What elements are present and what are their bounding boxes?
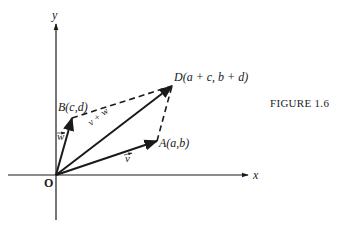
vector-addition-diagram [0, 0, 356, 236]
point-b-label: B(c,d) [58, 101, 88, 113]
dashed-side-a-to-d [157, 86, 172, 141]
vector-w-label: w [57, 131, 64, 142]
y-axis-label: y [52, 9, 57, 21]
origin-label: O [44, 177, 53, 189]
vector-v [56, 141, 157, 175]
point-a-label: A(a,b) [159, 137, 189, 149]
point-d-label: D(a + c, b + d) [174, 71, 248, 83]
vector-v-label: v [125, 153, 130, 164]
x-axis-label: x [253, 169, 258, 181]
vector-w [56, 118, 72, 175]
figure-caption: FIGURE 1.6 [270, 97, 329, 109]
